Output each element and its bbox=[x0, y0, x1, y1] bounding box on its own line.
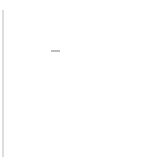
function-graph bbox=[0, 0, 149, 157]
